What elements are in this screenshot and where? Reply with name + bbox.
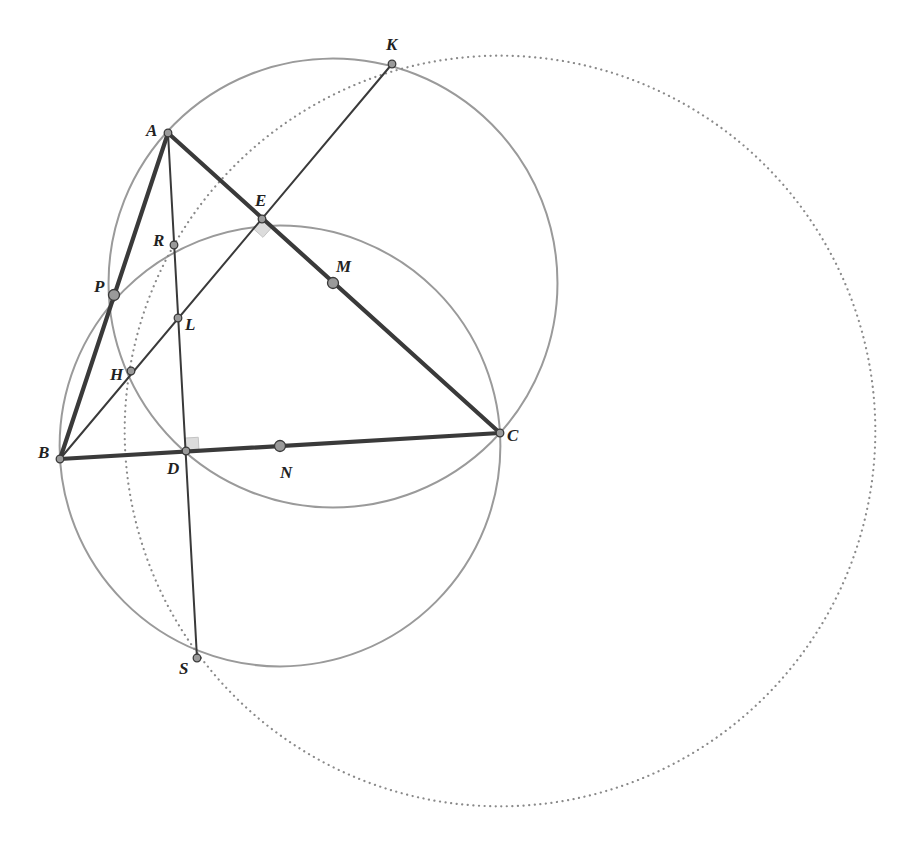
label-a: A [145, 121, 157, 140]
geometry-figure: ABCKERMPLHDNS [0, 0, 909, 856]
label-e: E [254, 191, 266, 210]
point-m [328, 278, 339, 289]
point-e [258, 215, 266, 223]
point-d [182, 447, 190, 455]
point-k [388, 60, 396, 68]
segments-layer [60, 64, 500, 658]
right-angle-markers [185, 219, 271, 451]
label-r: R [152, 231, 164, 250]
label-s: S [179, 659, 188, 678]
point-l [174, 314, 182, 322]
label-l: L [184, 315, 195, 334]
point-s [193, 654, 201, 662]
labels-layer: ABCKERMPLHDNS [37, 35, 519, 678]
label-k: K [385, 35, 399, 54]
point-r [170, 241, 178, 249]
point-a [164, 129, 172, 137]
label-c: C [507, 426, 519, 445]
label-n: N [279, 463, 293, 482]
line-as [168, 133, 197, 658]
label-p: P [93, 277, 105, 296]
point-h [127, 367, 135, 375]
point-n [275, 441, 286, 452]
point-b [56, 455, 64, 463]
point-c [496, 429, 504, 437]
point-p [109, 290, 120, 301]
label-m: M [335, 257, 352, 276]
circles-layer [60, 56, 876, 807]
label-h: H [109, 365, 124, 384]
label-d: D [166, 459, 179, 478]
label-b: B [37, 443, 49, 462]
